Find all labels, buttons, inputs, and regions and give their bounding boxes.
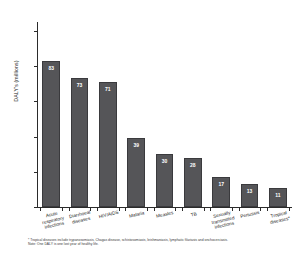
bar: 13 bbox=[241, 184, 259, 207]
y-axis-tick bbox=[34, 137, 38, 138]
y-axis-tick bbox=[34, 172, 38, 173]
plot-area: 020406080100 837371393028171311 bbox=[37, 22, 292, 207]
bar: 83 bbox=[42, 61, 60, 207]
bar-value-label: 11 bbox=[270, 193, 286, 198]
bar-value-label: 71 bbox=[100, 87, 116, 92]
bar-value-label: 13 bbox=[242, 189, 258, 194]
y-axis-tick bbox=[34, 207, 38, 208]
y-axis-tick bbox=[34, 31, 38, 32]
bar: 28 bbox=[184, 158, 202, 207]
bar-value-label: 17 bbox=[213, 182, 229, 187]
y-axis-tick bbox=[34, 101, 38, 102]
bar: 30 bbox=[156, 154, 174, 207]
y-axis-title: DALY's (millions) bbox=[13, 46, 19, 116]
bar-value-label: 39 bbox=[128, 143, 144, 148]
y-axis-tick bbox=[34, 66, 38, 67]
y-axis-line bbox=[37, 22, 38, 207]
bar: 11 bbox=[269, 188, 287, 207]
bar: 39 bbox=[127, 138, 145, 207]
bar: 17 bbox=[212, 177, 230, 207]
bar-value-label: 83 bbox=[43, 66, 59, 71]
bar: 71 bbox=[99, 82, 117, 207]
footnote: * Tropical diseases include trypanosomia… bbox=[28, 238, 278, 247]
x-axis-tick bbox=[40, 207, 41, 211]
bar: 73 bbox=[71, 78, 89, 207]
bar-chart-figure: DALY's (millions) 020406080100 837371393… bbox=[0, 0, 301, 261]
bar-value-label: 30 bbox=[157, 159, 173, 164]
x-axis-line bbox=[37, 207, 292, 208]
footnote-line-2: Note: One DALY is one lost year of healt… bbox=[28, 242, 278, 246]
bar-value-label: 73 bbox=[72, 83, 88, 88]
bar-value-label: 28 bbox=[185, 163, 201, 168]
